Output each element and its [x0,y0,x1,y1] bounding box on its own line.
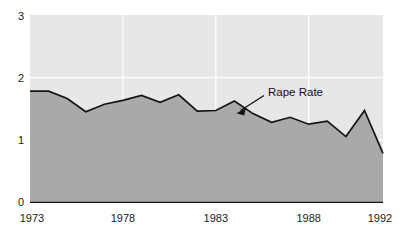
chart-figure: 3 2 1 0 1973 1978 1983 1988 1992 Rape Ra… [0,0,409,230]
x-tick-label-1973: 1973 [20,212,44,224]
x-tick-label-1983: 1983 [204,212,228,224]
y-tick-label-1: 1 [18,134,24,146]
y-tick-label-2: 2 [18,72,24,84]
x-tick-label-1978: 1978 [111,212,135,224]
annotation-label-rape-rate: Rape Rate [268,86,323,98]
y-tick-label-0: 0 [18,196,24,208]
x-tick-label-1992: 1992 [368,212,392,224]
x-tick-label-1988: 1988 [296,212,320,224]
y-tick-label-3: 3 [18,10,24,22]
area-chart: 3 2 1 0 1973 1978 1983 1988 1992 Rape Ra… [0,0,409,230]
